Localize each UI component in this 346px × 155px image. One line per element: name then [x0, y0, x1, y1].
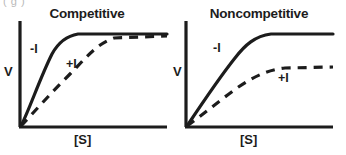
plot-area-noncompetitive — [173, 0, 346, 155]
panel-competitive: Competitive V [S] -I +I — [0, 0, 173, 155]
curve-label-minus-inhibitor-noncompetitive: -I — [213, 42, 221, 55]
curve-label-plus-inhibitor-competitive: +I — [66, 58, 77, 71]
plot-area-competitive — [0, 0, 173, 155]
curve-label-plus-inhibitor-noncompetitive: +I — [278, 72, 289, 85]
curve-plus-inhibitor-competitive — [21, 36, 167, 126]
curve-minus-inhibitor-noncompetitive — [187, 34, 333, 126]
curve-label-minus-inhibitor-competitive: -I — [30, 43, 38, 56]
panel-noncompetitive: Noncompetitive V [S] -I +I — [173, 0, 346, 155]
enzyme-inhibition-figure: ( g ) Competitive V [S] -I +I Noncompeti… — [0, 0, 346, 155]
curve-minus-inhibitor-competitive — [21, 34, 167, 126]
